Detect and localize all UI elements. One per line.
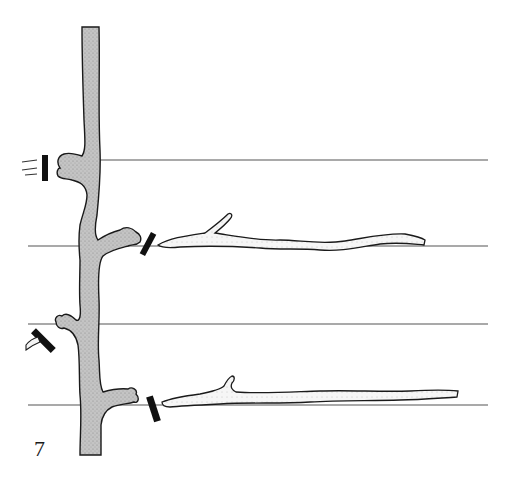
spur-upper-left [22,155,48,181]
cane-lower-right [146,376,458,422]
figure-number-label: 7 [34,436,45,462]
cane-upper-right [140,213,425,256]
cut-mark [140,232,157,256]
cut-mark [146,395,161,422]
spur-lower-left [26,328,56,353]
cut-mark [42,155,48,181]
pruning-diagram: 7 [0,0,516,487]
trunk [55,27,140,455]
